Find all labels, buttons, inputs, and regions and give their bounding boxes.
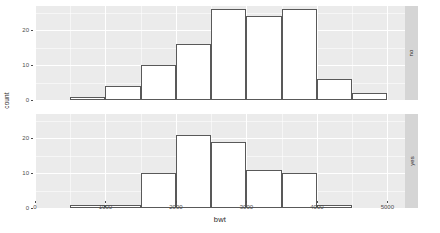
histogram-bar [317, 79, 352, 100]
y-axis-tick-label: 20 [22, 27, 29, 33]
x-axis-tick-mark [105, 201, 106, 203]
x-axis-tick-mark [387, 201, 388, 203]
gridline-minor-horizontal [35, 121, 405, 122]
gridline-major-vertical [387, 114, 388, 208]
x-axis-tick-label: 0 [33, 204, 36, 210]
x-axis-tick-label: 1000 [99, 204, 112, 210]
histogram-bar [141, 65, 176, 100]
y-axis-tick-label: 10 [22, 170, 29, 176]
y-axis-title: count [1, 0, 12, 200]
x-axis-tick-label: 4000 [310, 204, 323, 210]
x-axis-tick-mark [35, 201, 36, 203]
x-axis-tick-mark [317, 201, 318, 203]
gridline-minor-vertical [352, 6, 353, 100]
x-axis-tick-mark [176, 201, 177, 203]
histogram-bar [176, 135, 211, 208]
panel-plot-area [35, 6, 405, 100]
panel-plot-area [35, 114, 405, 208]
x-axis-tick-mark [246, 201, 247, 203]
facet-strip-yes: yes [405, 114, 418, 208]
histogram-bar [105, 86, 140, 100]
gridline-major-vertical [317, 114, 318, 208]
x-axis: 010002000300040005000 [35, 201, 405, 215]
y-axis-tick-mark [31, 100, 33, 101]
chart-canvas: count 0102001020 010002000300040005000 b… [0, 0, 440, 233]
gridline-major-vertical [35, 6, 36, 100]
histogram-bar [352, 93, 387, 100]
facet-panel-yes [35, 114, 405, 208]
gridline-major-horizontal [35, 138, 405, 139]
facet-panel-no [35, 6, 405, 100]
y-axis: 0102001020 [12, 0, 33, 233]
histogram-bar [70, 97, 105, 100]
gridline-minor-vertical [70, 6, 71, 100]
y-axis-tick-mark [31, 30, 33, 31]
y-axis-tick-label: 10 [22, 62, 29, 68]
y-axis-tick-label: 0 [26, 97, 29, 103]
histogram-bar [246, 16, 281, 100]
histogram-bar [211, 9, 246, 100]
x-axis-title: bwt [35, 215, 405, 224]
x-axis-tick-label: 5000 [381, 204, 394, 210]
histogram-bar [176, 44, 211, 100]
x-axis-tick-label: 2000 [169, 204, 182, 210]
x-axis-tick-label: 3000 [240, 204, 253, 210]
y-axis-tick-label: 0 [26, 205, 29, 211]
histogram-bar [282, 9, 317, 100]
y-axis-tick-mark [31, 173, 33, 174]
y-axis-title-text: count [3, 92, 10, 108]
y-axis-tick-mark [31, 138, 33, 139]
gridline-minor-vertical [352, 114, 353, 208]
gridline-minor-vertical [70, 114, 71, 208]
y-axis-tick-mark [31, 65, 33, 66]
facet-strip-label: no [409, 50, 415, 57]
histogram-bar [211, 142, 246, 208]
gridline-major-vertical [105, 114, 106, 208]
y-axis-tick-label: 20 [22, 135, 29, 141]
gridline-major-vertical [35, 114, 36, 208]
gridline-major-vertical [387, 6, 388, 100]
facet-strip-label: yes [408, 156, 414, 166]
facet-strip-no: no [405, 6, 418, 100]
